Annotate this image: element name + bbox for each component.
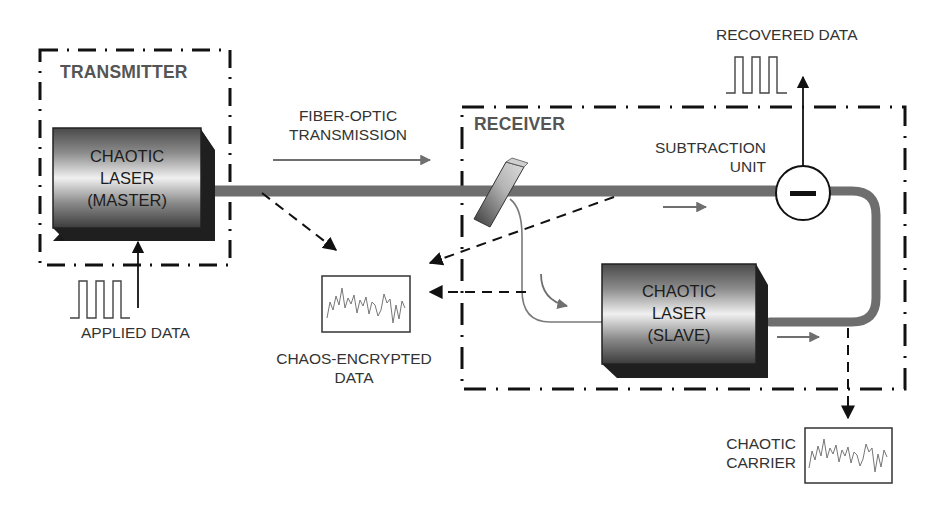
encrypted-signal-scope: [322, 276, 410, 332]
carrier-line1: CHAOTIC: [700, 434, 796, 453]
master-laser-label: CHAOTIC LASER (MASTER): [53, 145, 201, 211]
fiber-optic-line1: FIBER-OPTIC: [268, 106, 428, 125]
slave-laser-line2: LASER: [602, 302, 756, 324]
carrier-signal-scope: [805, 428, 892, 483]
fiber-optic-label: FIBER-OPTIC TRANSMISSION: [268, 106, 428, 144]
tap-master-to-encrypted: [262, 193, 336, 250]
master-laser-line3: (MASTER): [53, 189, 201, 211]
subtraction-line2: UNIT: [620, 157, 766, 176]
minus-icon: [790, 191, 816, 196]
injection-arrow: [541, 274, 567, 306]
splitter-to-slave-fiber: [510, 199, 602, 322]
master-laser-line2: LASER: [53, 167, 201, 189]
carrier-line2: CARRIER: [700, 453, 796, 472]
receiver-title: RECEIVER: [474, 114, 565, 135]
subtraction-unit-label: SUBTRACTION UNIT: [620, 138, 766, 176]
applied-data-label: APPLIED DATA: [81, 323, 190, 342]
encrypted-line1: CHAOS-ENCRYPTED: [258, 349, 450, 368]
master-laser-line1: CHAOTIC: [53, 145, 201, 167]
main-fiber: [212, 191, 876, 322]
fiber-optic-line2: TRANSMISSION: [268, 125, 428, 144]
subtraction-line1: SUBTRACTION: [620, 138, 766, 157]
recovered-data-label: RECOVERED DATA: [716, 25, 858, 44]
recovered-data-waveform: [726, 57, 787, 93]
encrypted-line2: DATA: [258, 368, 450, 387]
slave-laser-line1: CHAOTIC: [602, 280, 756, 302]
subtraction-unit: [776, 166, 830, 220]
chaotic-carrier-label: CHAOTIC CARRIER: [700, 434, 796, 472]
applied-data-waveform: [70, 281, 130, 318]
transmitter-title: TRANSMITTER: [60, 62, 188, 83]
slave-laser-label: CHAOTIC LASER (SLAVE): [602, 280, 756, 346]
chaos-encrypted-label: CHAOS-ENCRYPTED DATA: [258, 349, 450, 387]
slave-laser-line3: (SLAVE): [602, 324, 756, 346]
